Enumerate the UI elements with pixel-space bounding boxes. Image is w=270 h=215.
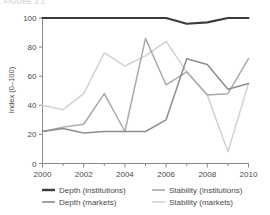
x-tick-label: 2004 <box>116 170 134 179</box>
chart-figure: FIGURE 2.1 020406080100 2000200220042006… <box>0 0 270 215</box>
chart-series-lines <box>43 18 249 152</box>
y-tick-label: 60 <box>28 72 37 81</box>
legend-label: Depth (markets) <box>59 198 117 207</box>
y-tick-label: 0 <box>32 160 37 169</box>
x-tick-label: 2008 <box>198 170 216 179</box>
legend-label: Stability (institutions) <box>169 186 243 195</box>
chart-legend: Depth (institutions)Stability (instituti… <box>42 186 243 207</box>
series-line-stability-markets <box>43 41 249 152</box>
x-axis-tick-labels: 200020022004200620082010 <box>34 170 258 179</box>
x-tick-label: 2002 <box>75 170 93 179</box>
series-line-stability-institutions <box>43 38 249 131</box>
y-tick-label: 40 <box>28 101 37 110</box>
y-axis-tick-labels: 020406080100 <box>23 14 37 169</box>
x-tick-label: 2000 <box>34 170 52 179</box>
y-axis-title: Index (0–100) <box>7 66 16 113</box>
x-tick-label: 2006 <box>157 170 175 179</box>
line-chart-plot: 020406080100 200020022004200620082010 In… <box>0 0 270 215</box>
x-tick-label: 2010 <box>240 170 258 179</box>
y-tick-label: 80 <box>28 43 37 52</box>
legend-label: Stability (markets) <box>169 198 233 207</box>
series-line-depth-institutions <box>43 18 249 24</box>
legend-label: Depth (institutions) <box>59 186 126 195</box>
y-axis-ticks <box>39 18 43 164</box>
y-tick-label: 20 <box>28 130 37 139</box>
y-tick-label: 100 <box>23 14 37 23</box>
